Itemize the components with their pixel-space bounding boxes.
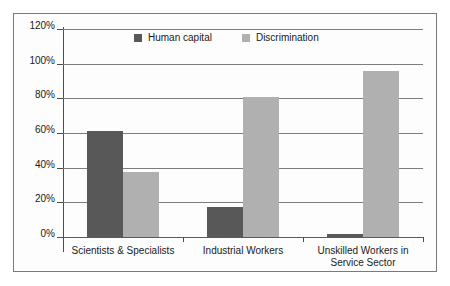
gridline bbox=[63, 237, 423, 238]
category-tick bbox=[423, 237, 424, 242]
category-label-line: Unskilled Workers in bbox=[303, 245, 423, 257]
category-tick bbox=[63, 237, 64, 242]
category-label-line: Industrial Workers bbox=[183, 245, 303, 257]
category-label-line: Service Sector bbox=[303, 257, 423, 269]
chart-figure: Human capital Discrimination 0%20%40%60%… bbox=[13, 13, 437, 272]
bar-discrimination bbox=[243, 97, 279, 237]
bar-group bbox=[327, 29, 399, 237]
bar-discrimination bbox=[363, 71, 399, 237]
y-axis-label: 40% bbox=[14, 160, 55, 170]
y-axis-label: 80% bbox=[14, 90, 55, 100]
category-label: Industrial Workers bbox=[183, 245, 303, 257]
plot-area bbox=[63, 29, 423, 237]
bar-discrimination bbox=[123, 172, 159, 237]
y-axis-label: 100% bbox=[14, 56, 55, 66]
category-tick bbox=[183, 237, 184, 242]
y-axis-label: 60% bbox=[14, 125, 55, 135]
y-axis-label: 0% bbox=[14, 229, 55, 239]
bar-human-capital bbox=[327, 234, 363, 237]
bar-human-capital bbox=[87, 131, 123, 237]
category-tick bbox=[303, 237, 304, 242]
bar-group bbox=[207, 29, 279, 237]
category-label: Unskilled Workers inService Sector bbox=[303, 245, 423, 269]
bar-human-capital bbox=[207, 207, 243, 237]
y-axis-label: 120% bbox=[14, 21, 55, 31]
y-axis-label: 20% bbox=[14, 194, 55, 204]
category-label-line: Scientists & Specialists bbox=[63, 245, 183, 257]
category-label: Scientists & Specialists bbox=[63, 245, 183, 257]
bar-group bbox=[87, 29, 159, 237]
